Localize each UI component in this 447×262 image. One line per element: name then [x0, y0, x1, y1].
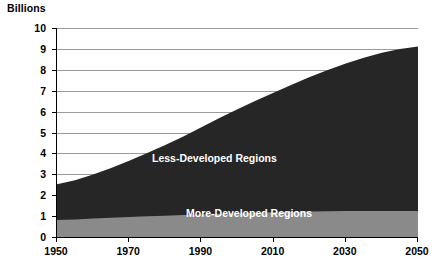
x-tick-mark — [417, 238, 418, 242]
y-tick-label: 6 — [6, 106, 46, 118]
population-area-chart: Billions Less-Developed Regions More-Dev… — [0, 0, 447, 262]
y-tick-mark — [52, 28, 56, 29]
x-tick-label: 2050 — [387, 245, 447, 257]
x-tick-label: 1950 — [26, 245, 86, 257]
plot-inner — [57, 28, 418, 237]
y-tick-label: 8 — [6, 64, 46, 76]
stacked-area-series — [57, 28, 418, 237]
y-tick-label: 0 — [6, 231, 46, 243]
y-tick-mark — [52, 195, 56, 196]
y-tick-label: 3 — [6, 168, 46, 180]
x-tick-label: 2010 — [243, 245, 303, 257]
y-tick-mark — [52, 112, 56, 113]
y-tick-mark — [52, 133, 56, 134]
x-tick-mark — [128, 238, 129, 242]
y-tick-mark — [52, 216, 56, 217]
x-tick-label: 2030 — [315, 245, 375, 257]
y-tick-label: 5 — [6, 127, 46, 139]
y-tick-mark — [52, 153, 56, 154]
x-tick-mark — [273, 238, 274, 242]
x-tick-mark — [345, 238, 346, 242]
y-tick-label: 9 — [6, 43, 46, 55]
x-tick-label: 1990 — [170, 245, 230, 257]
y-tick-mark — [52, 174, 56, 175]
series-label-less-developed: Less-Developed Regions — [152, 152, 277, 164]
y-tick-mark — [52, 49, 56, 50]
y-tick-mark — [52, 91, 56, 92]
y-axis-unit-label: Billions — [7, 2, 46, 15]
y-tick-mark — [52, 70, 56, 71]
y-tick-label: 1 — [6, 210, 46, 222]
y-tick-label: 10 — [6, 22, 46, 34]
y-tick-label: 4 — [6, 147, 46, 159]
y-tick-label: 2 — [6, 189, 46, 201]
y-tick-label: 7 — [6, 85, 46, 97]
x-tick-mark — [200, 238, 201, 242]
x-tick-mark — [56, 238, 57, 242]
x-tick-label: 1970 — [98, 245, 158, 257]
series-label-more-developed: More-Developed Regions — [186, 207, 312, 219]
